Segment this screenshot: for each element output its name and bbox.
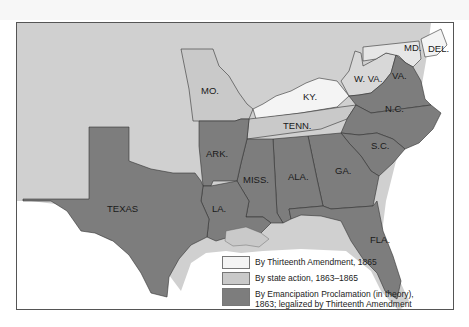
legend-label: By Thirteenth Amendment, 1865 [255,256,377,267]
page-top-strip [0,0,469,20]
label-la: LA. [212,203,226,214]
label-fla: FLA. [370,234,390,245]
legend-swatch-dark [222,288,250,306]
label-va: VA. [392,70,407,81]
legend-item-thirteenth-amendment: By Thirteenth Amendment, 1865 [222,256,425,269]
legend-label: By state action, 1863–1865 [255,272,358,283]
legend-item-emancipation: By Emancipation Proclamation (in theory)… [222,288,425,309]
legend-swatch-light [222,256,250,269]
label-miss: MISS. [243,174,269,185]
label-sc: S.C. [371,140,389,151]
label-mo: MO. [201,85,219,96]
map-legend: By Thirteenth Amendment, 1865 By state a… [222,256,425,312]
label-tenn: TENN. [283,120,312,131]
legend-item-state-action: By state action, 1863–1865 [222,272,425,285]
label-texas: TEXAS [107,203,138,214]
label-ky: KY. [303,91,317,102]
legend-swatch-medium [222,272,250,285]
label-ga: GA. [335,165,351,176]
label-del: DEL. [428,43,449,54]
label-wva: W. VA. [354,73,382,84]
legend-label: By Emancipation Proclamation (in theory)… [255,288,425,309]
label-ark: ARK. [206,148,228,159]
label-nc: N.C. [385,103,404,114]
label-md: MD. [404,42,421,53]
label-ala: ALA. [288,171,309,182]
